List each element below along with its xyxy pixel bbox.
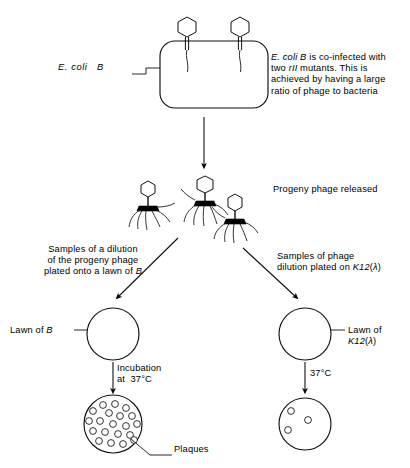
progeny-phage-2	[181, 176, 228, 226]
plaque	[90, 408, 97, 415]
plaque	[129, 413, 136, 420]
progeny-phage-1	[129, 181, 175, 230]
lawn-of-b-label: Lawn of B	[10, 325, 76, 336]
plaque	[288, 408, 295, 415]
bacterium-cell-group	[160, 41, 268, 108]
plaque	[90, 428, 97, 435]
phage-tail-fiber	[214, 223, 226, 239]
diagram-canvas: E. coli B E. coli B is co-infected witht…	[0, 0, 410, 468]
right-branch-instruction: Samples of phagedilution plated on K12(λ…	[277, 251, 409, 273]
plaque	[123, 405, 130, 412]
plate-result-k12-group	[279, 398, 331, 450]
plate-result-b-group	[84, 395, 172, 455]
phage-head-icon	[141, 181, 155, 197]
phage-tail-fiber	[152, 211, 160, 227]
plaque	[102, 429, 109, 436]
plate-lawn-of-b	[87, 308, 139, 360]
plaque	[115, 431, 122, 438]
phage-tail-fiber	[203, 206, 204, 226]
temperature-label-right: 37°C	[310, 368, 354, 379]
plaque	[110, 421, 117, 428]
phage-tail-fiber	[138, 211, 142, 229]
plaque	[285, 427, 292, 434]
coinfection-annotation: E. coli B is co-infected withtwo rII mut…	[271, 52, 407, 97]
phage-tail-fiber	[146, 211, 147, 230]
plaque	[86, 418, 93, 425]
phage-head-icon	[231, 17, 249, 37]
phage-tail-fiber	[233, 224, 234, 243]
phage-tail-fiber	[225, 224, 229, 242]
plaque	[106, 410, 113, 417]
phage-head-icon	[228, 194, 242, 211]
plaque	[100, 402, 107, 409]
progeny-phage-3	[212, 194, 258, 243]
phage-tail-fiber	[156, 210, 170, 222]
plaque	[305, 417, 312, 424]
phage-tail-fiber	[194, 206, 199, 225]
plaque	[96, 438, 103, 445]
plaque	[117, 413, 124, 420]
progeny-phage-label: Progeny phage released	[273, 184, 408, 195]
plaque	[97, 418, 104, 425]
phage-tail-fiber	[157, 203, 175, 207]
phage-baseplate	[194, 201, 216, 206]
plate-lawn-of-k12	[279, 308, 331, 360]
plate-result-lawn-k12	[279, 398, 331, 450]
plaque	[112, 401, 119, 408]
bacterium-cell-body	[160, 41, 268, 108]
plaque	[108, 440, 115, 447]
phage-head-icon	[197, 176, 213, 193]
lawn-of-k12-label: Lawn ofK12(λ)	[348, 325, 408, 347]
plaque	[123, 423, 130, 430]
plaque	[120, 441, 127, 448]
ecoli-label-genus: E. coli	[58, 62, 88, 72]
phage-head-icon	[178, 17, 196, 37]
plaque	[134, 421, 141, 428]
phage-tail-fiber	[240, 224, 247, 241]
ecoli-label-strain: B	[97, 62, 104, 72]
phage-tail-fiber	[181, 189, 195, 200]
plaques-label: Plaques	[174, 444, 244, 455]
ecoli-cell-label: E. coli B	[58, 62, 158, 73]
phage-baseplate	[137, 206, 159, 211]
left-branch-instruction: Samples of a dilutionof the progeny phag…	[8, 244, 178, 278]
incubation-label: Incubationat 37°C	[117, 363, 197, 385]
phage-baseplate	[224, 219, 246, 224]
